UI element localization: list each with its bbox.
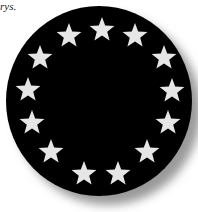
star-ring-emblem [0,0,198,212]
